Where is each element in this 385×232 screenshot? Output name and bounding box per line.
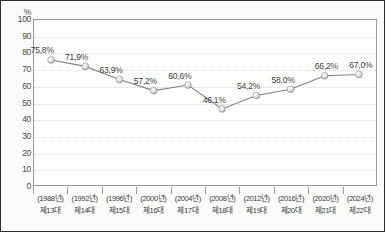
x-axis-tick bbox=[205, 187, 206, 194]
x-axis-term-label: 제19대 bbox=[239, 205, 273, 216]
y-axis-tick-label: 20 bbox=[3, 148, 31, 158]
x-axis-tick bbox=[33, 187, 34, 194]
data-point-marker bbox=[82, 63, 89, 70]
x-axis-category: (1992년)제14대 bbox=[67, 187, 101, 231]
y-axis-tick-label: 10 bbox=[3, 164, 31, 174]
data-point-label: 63,9% bbox=[99, 65, 122, 75]
data-point-marker bbox=[356, 71, 363, 78]
x-axis-term-label: 제21대 bbox=[308, 205, 342, 216]
plot-inner: 75,8%71,9%63,9%57,2%60,6%46.1%54,2%58.0%… bbox=[34, 20, 376, 185]
x-axis-tick bbox=[308, 187, 309, 194]
x-axis-category: (2000년)제16대 bbox=[136, 187, 170, 231]
x-axis-year-label: (1988년) bbox=[33, 193, 67, 204]
y-axis-tick-label: 100 bbox=[3, 14, 31, 24]
x-axis-tick bbox=[67, 187, 68, 194]
data-point-label: 58.0% bbox=[271, 75, 294, 85]
x-axis-year-label: (2008년) bbox=[205, 193, 239, 204]
x-axis-tick bbox=[171, 187, 172, 194]
x-axis-term-label: 제17대 bbox=[171, 205, 205, 216]
x-axis-term-label: 제22대 bbox=[343, 205, 377, 216]
chart-screenshot: % 1009080706050403020100 75,8%71,9%63,9%… bbox=[0, 0, 385, 232]
x-axis-tick bbox=[274, 187, 275, 194]
data-point-label: 71,9% bbox=[65, 52, 88, 62]
x-axis-tick bbox=[343, 187, 344, 194]
x-axis-year-label: (2000년) bbox=[136, 193, 170, 204]
y-axis-tick-label: 90 bbox=[3, 31, 31, 41]
y-axis: 1009080706050403020100 bbox=[3, 19, 31, 186]
data-point-marker bbox=[253, 92, 260, 99]
data-point-marker bbox=[150, 87, 157, 94]
data-point-marker bbox=[116, 76, 123, 83]
y-axis-tick-label: 40 bbox=[3, 114, 31, 124]
x-axis-category: (2008년)제18대 bbox=[205, 187, 239, 231]
data-point-marker bbox=[219, 106, 226, 113]
x-axis-term-label: 제13대 bbox=[33, 205, 67, 216]
x-axis-term-label: 제20대 bbox=[274, 205, 308, 216]
x-axis-year-label: (2016년) bbox=[274, 193, 308, 204]
plot-area: 75,8%71,9%63,9%57,2%60,6%46.1%54,2%58.0%… bbox=[33, 19, 377, 186]
data-point-marker bbox=[287, 86, 294, 93]
data-point-marker bbox=[185, 82, 192, 89]
data-point-marker bbox=[48, 57, 55, 64]
x-axis: (1988년)제13대(1992년)제14대(1996년)제15대(2000년)… bbox=[33, 187, 377, 231]
x-axis-tick bbox=[239, 187, 240, 194]
y-axis-tick-label: 60 bbox=[3, 81, 31, 91]
data-point-label: 67,0% bbox=[349, 60, 372, 70]
x-axis-tick bbox=[102, 187, 103, 194]
y-axis-tick-label: 50 bbox=[3, 98, 31, 108]
y-axis-tick-label: 70 bbox=[3, 64, 31, 74]
x-axis-year-label: (1996년) bbox=[102, 193, 136, 204]
x-axis-year-label: (2004년) bbox=[171, 193, 205, 204]
x-axis-year-label: (2024년) bbox=[343, 193, 377, 204]
data-point-label: 60,6% bbox=[168, 71, 191, 81]
x-axis-category: (2004년)제17대 bbox=[171, 187, 205, 231]
data-point-label: 66,2% bbox=[315, 61, 338, 71]
data-point-label: 54,2% bbox=[237, 81, 260, 91]
x-axis-term-label: 제15대 bbox=[102, 205, 136, 216]
y-axis-tick-label: 30 bbox=[3, 131, 31, 141]
x-axis-tick bbox=[136, 187, 137, 194]
data-point-label: 57,2% bbox=[134, 76, 157, 86]
x-axis-term-label: 제16대 bbox=[136, 205, 170, 216]
x-axis-category: (2012년)제19대 bbox=[239, 187, 273, 231]
x-axis-category: (1988년)제13대 bbox=[33, 187, 67, 231]
data-point-marker bbox=[321, 72, 328, 79]
y-axis-tick-label: 80 bbox=[3, 47, 31, 57]
x-axis-term-label: 제18대 bbox=[205, 205, 239, 216]
x-axis-year-label: (1992년) bbox=[67, 193, 101, 204]
x-axis-category: (2020년)제21대 bbox=[308, 187, 342, 231]
x-axis-year-label: (2012년) bbox=[239, 193, 273, 204]
x-axis-term-label: 제14대 bbox=[67, 205, 101, 216]
x-axis-category: (2024년)제22대 bbox=[343, 187, 377, 231]
x-axis-category: (2016년)제20대 bbox=[274, 187, 308, 231]
x-axis-year-label: (2020년) bbox=[308, 193, 342, 204]
y-axis-tick-label: 0 bbox=[3, 181, 31, 191]
data-point-label: 46.1% bbox=[203, 95, 226, 105]
data-point-label: 75,8% bbox=[31, 45, 54, 55]
x-axis-category: (1996년)제15대 bbox=[102, 187, 136, 231]
